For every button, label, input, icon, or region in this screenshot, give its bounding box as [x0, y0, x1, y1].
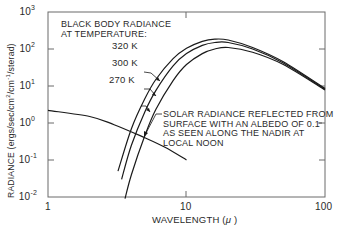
- y-tick-1e-1: 10-1: [13, 153, 37, 165]
- x-axis-label: WAVELENGTH (μ ): [152, 214, 237, 225]
- y-axis-label: RADIANCE (ergs/sec/cm2/cm-1/sterad): [5, 43, 16, 198]
- y-tick-1e3: 103: [11, 5, 35, 17]
- x-tick-1: 1: [45, 201, 51, 212]
- label-300k: 300 K: [112, 58, 138, 68]
- label-270k: 270 K: [109, 75, 135, 85]
- plot-frame: [48, 12, 325, 197]
- label-320k: 320 K: [112, 41, 138, 51]
- y-tick-1e-2: 10-2: [13, 190, 37, 202]
- x-tick-100: 100: [315, 201, 332, 212]
- curve-320k: [118, 39, 325, 171]
- solar-note: SOLAR RADIANCE REFLECTED FROM SURFACE WI…: [163, 110, 333, 148]
- solar-leader: [144, 114, 162, 137]
- blackbody-title: BLACK BODY RADIANCE AT TEMPERATURE:: [61, 20, 171, 39]
- x-tick-10: 10: [180, 201, 192, 212]
